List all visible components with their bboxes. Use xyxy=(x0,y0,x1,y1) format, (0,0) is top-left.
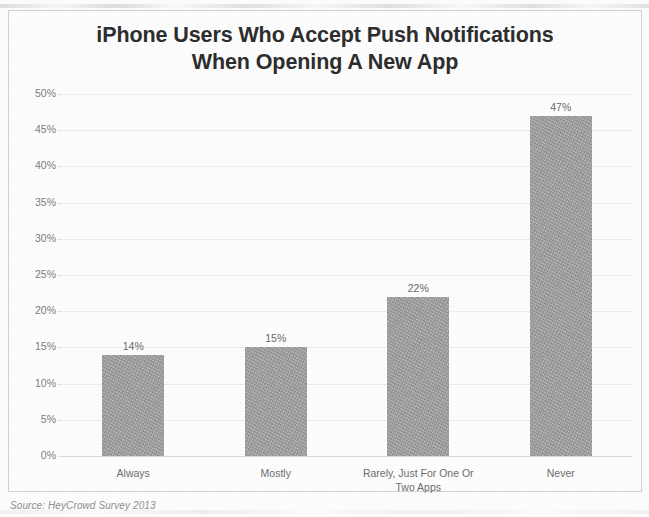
chart-title-line-1: iPhone Users Who Accept Push Notificatio… xyxy=(96,23,553,47)
bar-value-label: 14% xyxy=(103,340,163,352)
y-axis-tick-mark xyxy=(58,311,62,312)
y-axis-tick-label: 20% xyxy=(16,305,56,316)
bar xyxy=(387,297,449,456)
bar-value-label: 22% xyxy=(388,282,448,294)
source-note: Source: HeyCrowd Survey 2013 xyxy=(10,500,156,511)
y-axis-tick-label: 45% xyxy=(16,124,56,135)
y-axis-tick-mark xyxy=(58,166,62,167)
gridline xyxy=(62,456,632,457)
y-axis-tick-label: 35% xyxy=(16,197,56,208)
bar-value-label: 15% xyxy=(246,332,306,344)
gridline xyxy=(62,94,632,95)
chart-title-line-2: When Opening A New App xyxy=(40,49,610,76)
bar xyxy=(102,355,164,456)
y-axis-tick-mark xyxy=(58,239,62,240)
bar-value-label: 47% xyxy=(531,101,591,113)
plot-area: 14%15%22%47% xyxy=(62,94,632,456)
y-axis-tick-mark xyxy=(58,275,62,276)
y-axis-tick-label: 0% xyxy=(16,450,56,461)
y-axis-tick-mark xyxy=(58,420,62,421)
y-axis-tick-mark xyxy=(58,130,62,131)
x-axis-category-label: Mostly xyxy=(213,466,339,480)
bar xyxy=(245,347,307,456)
y-axis-tick-mark xyxy=(58,94,62,95)
y-axis-tick-mark xyxy=(58,456,62,457)
y-axis-tick-label: 30% xyxy=(16,233,56,244)
y-axis-tick-mark xyxy=(58,384,62,385)
y-axis-tick-label: 15% xyxy=(16,341,56,352)
chart-title: iPhone Users Who Accept Push Notificatio… xyxy=(40,22,610,76)
x-axis-category-label: Rarely, Just For One Or Two Apps xyxy=(355,466,481,494)
y-axis-tick-mark xyxy=(58,203,62,204)
bar xyxy=(530,116,592,456)
x-axis-category-label: Never xyxy=(498,466,624,480)
y-axis-tick-label: 5% xyxy=(16,414,56,425)
scan-edge-top xyxy=(0,4,649,8)
y-axis-tick-label: 50% xyxy=(16,88,56,99)
chart-page: iPhone Users Who Accept Push Notificatio… xyxy=(0,0,649,517)
y-axis-tick-label: 25% xyxy=(16,269,56,280)
y-axis-tick-mark xyxy=(58,347,62,348)
y-axis-tick-label: 40% xyxy=(16,160,56,171)
x-axis-category-label: Always xyxy=(70,466,196,480)
y-axis-tick-label: 10% xyxy=(16,378,56,389)
